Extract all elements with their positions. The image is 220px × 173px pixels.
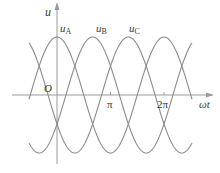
x-axis-label: ωt	[199, 98, 211, 110]
tick-label-2pi: 2π	[157, 98, 169, 110]
three-phase-waveform-diagram: u O ωt π 2π uA uB uC	[0, 0, 220, 173]
y-axis-arrow-icon	[55, 2, 60, 10]
x-axis-arrow-icon	[206, 93, 214, 98]
series-label-u-c: uC	[129, 22, 140, 36]
tick-label-pi: π	[107, 98, 113, 110]
origin-label: O	[44, 82, 52, 94]
series-label-u-a: uA	[60, 22, 72, 36]
series-label-u-b: uB	[96, 22, 107, 36]
y-axis-label: u	[45, 5, 51, 19]
